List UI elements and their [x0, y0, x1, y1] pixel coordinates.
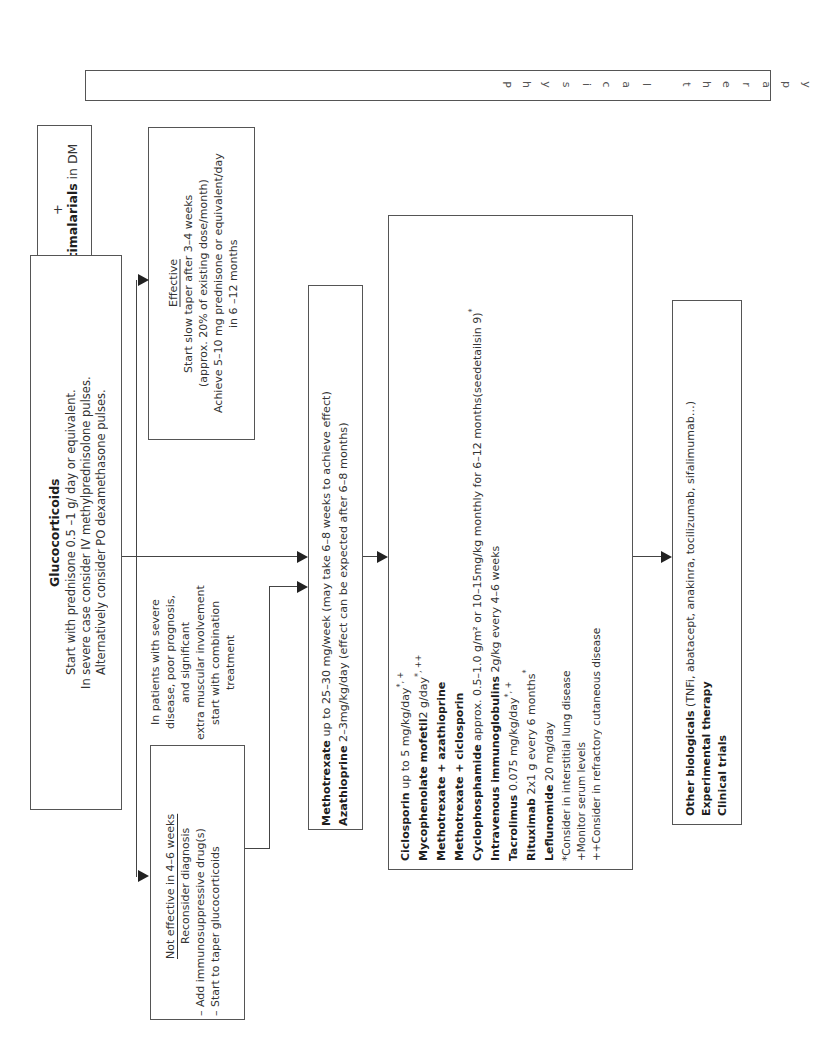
arrow-right-icon	[297, 551, 308, 563]
second-line-item: Methotrexate + azathioprine	[433, 226, 451, 861]
physical-therapy-box: Physical therapy	[85, 70, 771, 101]
third-line-item: Clinical trials	[715, 311, 731, 816]
not-effective-line: – Start to taper glucocorticoids	[208, 756, 223, 1016]
effective-line: in 6 –12 months	[226, 128, 241, 439]
footnote: ++Consider in refractory cutaneous disea…	[589, 226, 604, 861]
connector-not-effective	[269, 586, 298, 587]
second-line-item: Intravenous immunoglobulins 2g/kg every …	[487, 226, 505, 861]
arrow-right-icon	[138, 274, 149, 286]
first-line-item: Azathioprine 2–3mg/kg/day (effect can be…	[335, 296, 352, 826]
not-effective-title: Not effective in 4–6 weeks	[163, 756, 178, 1016]
glucocorticoids-line: Alternatively consider PO dexamethasone …	[94, 256, 109, 809]
connector-third-line	[633, 556, 661, 557]
effective-line: (approx. 20% of existing dose/month)	[196, 128, 211, 439]
not-effective-line: Reconsider diagnosis	[178, 756, 193, 1016]
third-line-box: Other biologicals (TNFi, abatacept, anak…	[672, 300, 742, 825]
glucocorticoids-line: In severe case consider IV methylprednis…	[79, 256, 94, 809]
not-effective-box: Not effective in 4–6 weeks Reconsider di…	[150, 745, 245, 1020]
glucocorticoids-box: Glucocorticoids Start with prednisone 0.…	[30, 255, 122, 810]
severe-disease-note: In patients with severe disease, poor pr…	[148, 575, 243, 750]
glucocorticoids-title: Glucocorticoids	[46, 256, 64, 809]
arrow-right-icon	[661, 551, 672, 563]
effective-line: Achieve 5–10 mg prednisone or equivalent…	[211, 128, 226, 439]
footnote: *Consider in interstitial lung disease	[559, 226, 574, 861]
arrow-right-icon	[138, 870, 149, 882]
effective-line: Start slow taper after 3–4 weeks	[181, 128, 196, 439]
second-line-item: Leflunomide 20 mg/day	[541, 226, 559, 861]
arrow-right-icon	[297, 581, 308, 593]
physical-therapy-label: Physical therapy	[496, 78, 814, 91]
second-line-item: Rituximab 2x1 g every 6 months*	[523, 226, 541, 861]
third-line-item: Other biologicals (TNFi, abatacept, anak…	[683, 311, 699, 816]
second-line-item: Ciclosporin up to 5 mg/kg/day*, +	[397, 226, 415, 861]
first-line-box: Methotrexate up to 25–30 mg/week (may ta…	[308, 285, 363, 830]
second-line-item: Mycophenolate mofetil2 g/day*, ++	[415, 226, 433, 861]
second-line-box: Ciclosporin up to 5 mg/kg/day*, + Mycoph…	[388, 215, 633, 870]
second-line-item: Methotrexate + ciclosporin	[451, 226, 469, 861]
connector-branch	[136, 280, 137, 877]
effective-box: Effective Start slow taper after 3–4 wee…	[148, 127, 255, 440]
arrow-right-icon	[377, 551, 388, 563]
first-line-item: Methotrexate up to 25–30 mg/week (may ta…	[318, 296, 335, 826]
connector-not-effective	[245, 848, 269, 849]
not-effective-line: – Add immunosuppressive drug(s)	[193, 756, 208, 1016]
second-line-item: Tacrolimus 0.075 mg/kg/day*, +	[505, 226, 523, 861]
connector-not-effective	[269, 586, 270, 849]
connector-second-line	[363, 556, 377, 557]
second-line-item: Cyclophosphamide approx. 0.5–1.0 g/m² or…	[469, 226, 487, 861]
glucocorticoids-line: Start with prednisone 0.5 –1 g/ day or e…	[64, 256, 79, 809]
effective-title: Effective	[166, 128, 181, 439]
connector-main	[122, 556, 298, 557]
footnote: +Monitor serum levels	[574, 226, 589, 861]
third-line-item: Experimental therapy	[699, 311, 715, 816]
